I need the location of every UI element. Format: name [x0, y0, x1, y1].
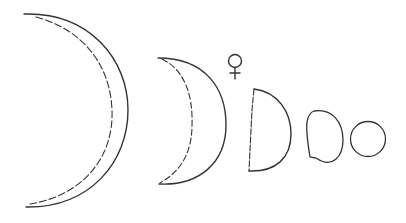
- phase-full: [351, 122, 386, 157]
- venus-symbol-icon: [229, 55, 242, 80]
- venus-phases-diagram: [0, 0, 406, 223]
- phase-gibbous: [307, 111, 343, 163]
- phase-half: [249, 89, 291, 171]
- phase-large-crescent: [24, 14, 128, 207]
- phase-crescent: [158, 58, 226, 184]
